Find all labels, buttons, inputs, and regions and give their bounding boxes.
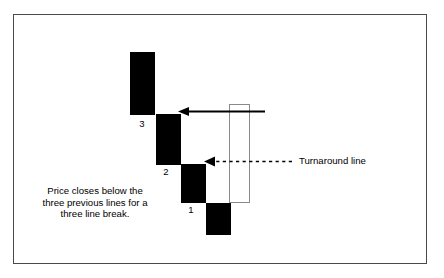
break-annotation-text: Price closes below the three previous li… — [30, 185, 160, 220]
price-block-label-2: 2 — [157, 166, 175, 177]
annotation-line-1: Price closes below the — [30, 185, 160, 197]
solid-arrow-group — [178, 107, 265, 116]
price-block-break — [206, 203, 231, 235]
dashed-arrow-group — [204, 157, 292, 167]
break-confirmation-arrow-svg — [170, 100, 280, 124]
annotation-line-2: three previous lines for a — [30, 197, 160, 209]
price-block-3 — [130, 52, 155, 115]
turnaround-line-arrow-svg — [198, 150, 298, 174]
turnaround-line-label: Turnaround line — [299, 155, 366, 167]
price-block-label-1: 1 — [182, 204, 200, 215]
price-block-label-3: 3 — [133, 118, 151, 129]
plot-area: 3 2 1 Price closes below the three previ… — [0, 0, 444, 278]
solid-arrow-head — [178, 107, 189, 116]
dashed-arrow-head — [204, 157, 215, 167]
three-line-break-figure: 3 2 1 Price closes below the three previ… — [0, 0, 444, 278]
annotation-line-3: three line break. — [30, 208, 160, 220]
